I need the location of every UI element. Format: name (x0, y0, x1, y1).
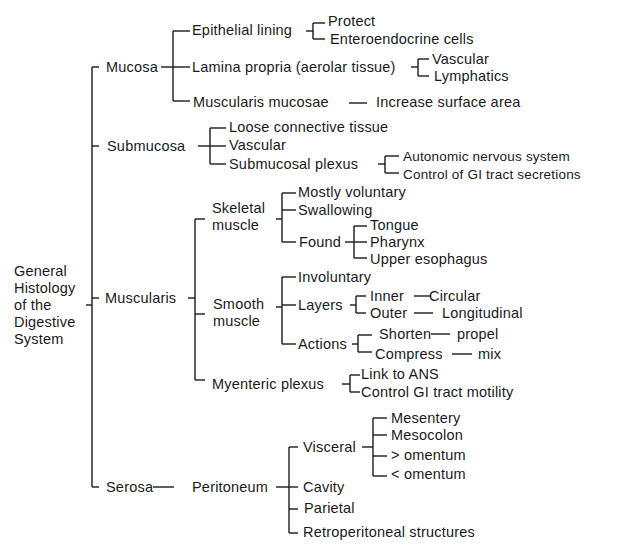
node-swallowing: Swallowing (298, 202, 373, 219)
node-increase-surface-area: Increase surface area (376, 94, 520, 111)
node-longitudinal: Longitudinal (442, 305, 523, 322)
node-line: Skeletal (212, 200, 265, 217)
node-muscularis-mucosae: Muscularis mucosae (193, 94, 329, 111)
node-link-to-ans: Link to ANS (361, 366, 439, 383)
node-control-gi-motility: Control GI tract motility (361, 384, 513, 401)
node-found: Found (299, 234, 341, 251)
node-propel: propel (457, 326, 499, 343)
node-autonomic-nervous-system: Autonomic nervous system (403, 148, 570, 165)
node-lesser-omentum: < omentum (391, 466, 466, 483)
root-title: General Histology of the Digestive Syste… (14, 263, 75, 348)
node-outer: Outer (370, 305, 407, 322)
node-actions: Actions (298, 336, 347, 353)
node-submucosa: Submucosa (107, 138, 185, 155)
node-visceral: Visceral (303, 439, 356, 456)
node-submucosal-plexus: Submucosal plexus (229, 156, 358, 173)
node-mucosa: Mucosa (106, 59, 158, 76)
root-line: System (14, 331, 75, 348)
node-line: muscle (213, 313, 264, 330)
node-vascular-mucosa: Vascular (432, 51, 489, 68)
node-mix: mix (478, 346, 501, 363)
node-greater-omentum: > omentum (391, 447, 466, 464)
node-lamina-propria: Lamina propria (aerolar tissue) (192, 59, 396, 76)
node-line: Smooth (213, 296, 264, 313)
node-muscularis: Muscularis (105, 290, 176, 307)
node-circular: Circular (429, 288, 481, 305)
node-mostly-voluntary: Mostly voluntary (298, 184, 406, 201)
node-layers: Layers (298, 297, 343, 314)
node-upper-esophagus: Upper esophagus (370, 251, 487, 268)
node-pharynx: Pharynx (370, 234, 425, 251)
node-mesocolon: Mesocolon (391, 427, 463, 444)
node-skeletal-muscle: Skeletal muscle (212, 200, 265, 234)
node-parietal: Parietal (304, 500, 355, 517)
node-serosa: Serosa (106, 479, 153, 496)
root-line: Digestive (14, 314, 75, 331)
node-myenteric-plexus: Myenteric plexus (212, 376, 324, 393)
node-retroperitoneal-structures: Retroperitoneal structures (303, 524, 475, 541)
node-involuntary: Involuntary (298, 269, 371, 286)
node-epithelial-lining: Epithelial lining (192, 22, 292, 39)
node-enteroendocrine-cells: Enteroendocrine cells (330, 31, 474, 48)
node-vascular-submucosa: Vascular (229, 137, 286, 154)
node-tongue: Tongue (370, 217, 419, 234)
node-control-gi-secretions: Control of GI tract secretions (403, 166, 581, 183)
node-compress: Compress (375, 346, 443, 363)
histology-tree-diagram: General Histology of the Digestive Syste… (0, 0, 619, 555)
root-line: Histology (14, 280, 75, 297)
node-shorten: Shorten (379, 326, 431, 343)
node-peritoneum: Peritoneum (192, 479, 268, 496)
node-inner: Inner (370, 288, 404, 305)
node-lymphatics: Lymphatics (434, 68, 509, 85)
root-line: of the (14, 297, 75, 314)
node-cavity: Cavity (303, 479, 345, 496)
node-line: muscle (212, 217, 265, 234)
node-mesentery: Mesentery (391, 410, 461, 427)
root-line: General (14, 263, 75, 280)
node-loose-connective-tissue: Loose connective tissue (229, 119, 388, 136)
node-protect: Protect (328, 13, 375, 30)
node-smooth-muscle: Smooth muscle (213, 296, 264, 330)
